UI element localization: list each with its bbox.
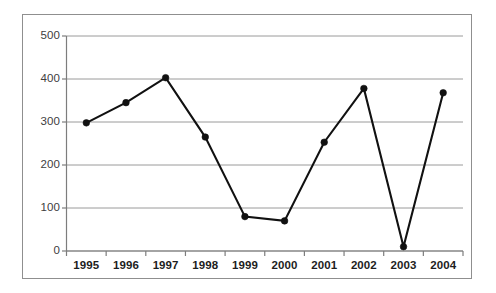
x-axis-tick-label: 1996 xyxy=(105,259,147,271)
y-axis-ticks xyxy=(62,36,67,251)
x-axis-tick-label: 1995 xyxy=(65,259,107,271)
x-axis-tick-label: 2001 xyxy=(303,259,345,271)
y-axis-tick-label: 500 xyxy=(26,29,60,41)
y-axis-tick-label: 400 xyxy=(26,72,60,84)
x-axis-tick-label: 2000 xyxy=(264,259,306,271)
x-axis-tick-label: 2002 xyxy=(343,259,385,271)
x-axis-tick-label: 1999 xyxy=(224,259,266,271)
line-chart-plot xyxy=(0,0,496,293)
y-axis-tick-label: 100 xyxy=(26,201,60,213)
x-axis-tick-label: 1997 xyxy=(145,259,187,271)
x-axis-ticks xyxy=(67,251,464,256)
x-axis-tick-label: 1998 xyxy=(184,259,226,271)
y-axis-tick-label: 200 xyxy=(26,158,60,170)
data-series-line xyxy=(86,78,443,247)
chart-page: 0100200300400500 19951996199719981999200… xyxy=(0,0,496,293)
x-axis-tick-label: 2004 xyxy=(422,259,464,271)
y-axis-tick-label: 300 xyxy=(26,115,60,127)
data-point-markers xyxy=(83,74,446,250)
x-axis-tick-label: 2003 xyxy=(383,259,425,271)
y-axis-tick-label: 0 xyxy=(26,244,60,256)
